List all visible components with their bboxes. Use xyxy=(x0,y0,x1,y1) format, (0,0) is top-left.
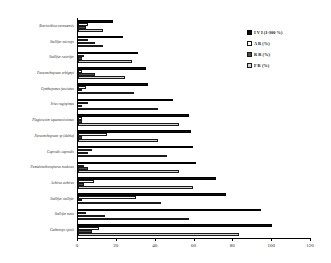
y-axis-category-label: Cathorops spixii xyxy=(50,228,74,232)
bar-group xyxy=(78,191,311,207)
bar-chart: 020406080100120 Botriochloa vermuensisSt… xyxy=(0,0,331,263)
legend-label: F R (%) xyxy=(254,63,269,68)
bar-ivi xyxy=(78,99,173,102)
y-axis-category-label: Plagioscion squamosissimus xyxy=(32,118,74,122)
x-axis-tick-label: 60 xyxy=(191,243,196,249)
bar-ar xyxy=(78,133,107,136)
x-axis-tick-label: 120 xyxy=(306,243,314,249)
bar-fr xyxy=(78,60,132,63)
bar-ivi xyxy=(78,162,196,165)
bar-group xyxy=(78,144,311,160)
chart-category-row: Achirus achirus xyxy=(77,175,310,191)
bar-ivi xyxy=(78,209,261,212)
bar-fr xyxy=(78,218,189,221)
y-axis-category-label: Stellifer stellifer xyxy=(50,196,74,200)
chart-category-row: Irius rugispinus xyxy=(77,97,310,113)
bar-ivi xyxy=(78,224,272,227)
y-axis-category-label: Paraonchopsum urbignyi xyxy=(37,71,74,75)
bar-group xyxy=(78,81,311,97)
chart-category-row: Stellifer naso xyxy=(77,207,310,223)
bar-ivi xyxy=(78,177,216,180)
x-axis-tick-label: 20 xyxy=(113,243,118,249)
x-axis-tick xyxy=(232,238,233,241)
bar-ivi xyxy=(78,52,138,55)
x-axis-tick xyxy=(194,238,195,241)
bar-fr xyxy=(78,123,179,126)
x-axis-tick-label: 40 xyxy=(152,243,157,249)
bar-ivi xyxy=(78,67,146,70)
bar-group xyxy=(78,112,311,128)
bar-group xyxy=(78,159,311,175)
y-axis-category-label: Irius rugispinus xyxy=(51,102,74,106)
y-axis-category-label: Stellifer microps xyxy=(50,39,74,43)
bar-fr xyxy=(78,155,167,158)
y-axis-category-label: Cynthoponus fasciatus xyxy=(41,86,74,90)
legend-item: I V I (1-300 %) xyxy=(247,27,282,38)
y-axis-category-label: Botriochloa vermuensis xyxy=(39,24,74,28)
x-axis-tick-label: 80 xyxy=(230,243,235,249)
bar-ivi xyxy=(78,114,189,117)
bar-ar xyxy=(78,196,136,199)
y-axis-category-label: Caprodis caprodis xyxy=(47,149,74,153)
y-axis-category-label: Stellifer naso xyxy=(55,212,74,216)
legend-label: R R (%) xyxy=(254,52,270,57)
x-axis-tick xyxy=(155,238,156,241)
chart-category-row: Plagioscion squamosissimus xyxy=(77,112,310,128)
chart-category-row: Cynthoponus fasciatus xyxy=(77,81,310,97)
legend-item: F R (%) xyxy=(247,60,282,71)
bar-group xyxy=(78,128,311,144)
bar-fr xyxy=(78,76,125,79)
bar-fr xyxy=(78,170,179,173)
bar-fr xyxy=(78,108,158,111)
legend-swatch-icon xyxy=(247,63,252,68)
legend-item: A R (%) xyxy=(247,38,282,49)
bar-group xyxy=(78,97,311,113)
y-axis-category-label: Achirus achirus xyxy=(51,181,74,185)
bar-ivi xyxy=(78,83,148,86)
bar-group xyxy=(78,175,311,191)
chart-legend: I V I (1-300 %)A R (%)R R (%)F R (%) xyxy=(247,27,282,71)
chart-category-row: Pentalonchoropterus nodosus xyxy=(77,159,310,175)
legend-label: I V I (1-300 %) xyxy=(254,30,282,35)
chart-category-row: Caprodis caprodis xyxy=(77,144,310,160)
x-axis-tick xyxy=(116,238,117,241)
x-axis-tick-label: 100 xyxy=(267,243,275,249)
bar-fr xyxy=(78,29,103,32)
y-axis-category-label: Stellifer rastrifer xyxy=(49,55,74,59)
y-axis-category-label: Paraonchopsum sp (dubia) xyxy=(34,134,74,138)
x-axis-tick xyxy=(310,238,311,241)
chart-category-row: Stellifer stellifer xyxy=(77,191,310,207)
legend-item: R R (%) xyxy=(247,49,282,60)
bar-group xyxy=(78,222,311,238)
x-axis-tick-label: 0 xyxy=(76,243,79,249)
legend-swatch-icon xyxy=(247,30,252,35)
chart-category-row: Cathorops spixii xyxy=(77,222,310,238)
bar-group xyxy=(78,207,311,223)
legend-label: A R (%) xyxy=(254,41,270,46)
legend-swatch-icon xyxy=(247,41,252,46)
x-axis-tick xyxy=(271,238,272,241)
bar-fr xyxy=(78,233,239,236)
y-axis-category-label: Pentalonchoropterus nodosus xyxy=(31,165,74,169)
bar-fr xyxy=(78,186,193,189)
bar-fr xyxy=(78,202,161,205)
bar-fr xyxy=(78,92,134,95)
bar-ivi xyxy=(78,146,193,149)
bar-fr xyxy=(78,139,158,142)
chart-category-row: Paraonchopsum sp (dubia) xyxy=(77,128,310,144)
bar-fr xyxy=(78,45,103,48)
x-axis-tick xyxy=(77,238,78,241)
legend-swatch-icon xyxy=(247,52,252,57)
